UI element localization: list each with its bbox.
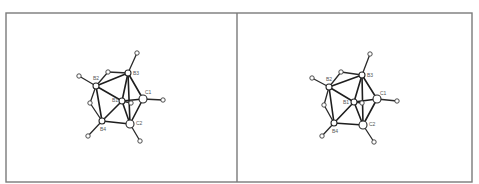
atom-h5 xyxy=(395,99,399,103)
atom-label-c1: C1 xyxy=(145,89,152,95)
figure-frame xyxy=(6,13,472,182)
atom-b3 xyxy=(359,72,365,78)
atom-label-b2: B2 xyxy=(93,75,99,81)
atom-h6 xyxy=(372,140,376,144)
atom-b2 xyxy=(326,84,332,90)
atom-h3 xyxy=(77,74,81,78)
atom-h4 xyxy=(368,52,372,56)
atom-c2 xyxy=(126,120,134,128)
bond-b2-b1 xyxy=(329,87,354,102)
atom-label-c2: C2 xyxy=(136,120,143,126)
atom-h2 xyxy=(322,103,326,107)
atom-b3 xyxy=(125,70,131,76)
atom-label-b3: B3 xyxy=(367,72,373,78)
atom-c1 xyxy=(139,95,147,103)
bond-b3-c2 xyxy=(128,73,130,124)
atom-b1 xyxy=(351,99,357,105)
atom-h5 xyxy=(161,98,165,102)
atom-hb xyxy=(339,70,343,74)
atom-h3 xyxy=(310,76,314,80)
atom-label-b1: B1 xyxy=(112,97,118,103)
atom-hb xyxy=(106,70,110,74)
bond-b1-b4 xyxy=(334,102,354,123)
bond-b3-b1 xyxy=(122,73,128,101)
atom-label-c1: C1 xyxy=(380,90,387,96)
atom-label-b3: B3 xyxy=(133,70,139,76)
atom-b4 xyxy=(99,118,105,124)
atom-c2 xyxy=(359,121,367,129)
atom-h6 xyxy=(138,139,142,143)
bond-b3-b1 xyxy=(354,75,362,102)
atom-c1 xyxy=(373,95,381,103)
bond-b3-c2 xyxy=(362,75,363,125)
atom-label-b4: B4 xyxy=(100,126,106,132)
atom-h7 xyxy=(320,134,324,138)
atom-h4 xyxy=(135,51,139,55)
atom-label-c2: C2 xyxy=(369,121,376,127)
atom-label-b4: B4 xyxy=(332,128,338,134)
atom-b2 xyxy=(93,83,99,89)
atom-label-b2: B2 xyxy=(326,76,332,82)
right-panel-molecule: B1B2B3B4C1C2 xyxy=(310,52,399,144)
atom-h7 xyxy=(86,134,90,138)
left-panel-molecule: B1B2B3B4C1C2 xyxy=(77,51,165,143)
atom-b4 xyxy=(331,120,337,126)
bond-b1-b4 xyxy=(102,101,122,121)
atom-h1 xyxy=(360,101,364,105)
atom-h2 xyxy=(88,101,92,105)
stereo-figure: B1B2B3B4C1C2 B1B2B3B4C1C2 xyxy=(0,0,479,184)
atom-label-b1: B1 xyxy=(343,99,349,105)
atom-h1 xyxy=(129,101,133,105)
atom-b1 xyxy=(119,98,125,104)
